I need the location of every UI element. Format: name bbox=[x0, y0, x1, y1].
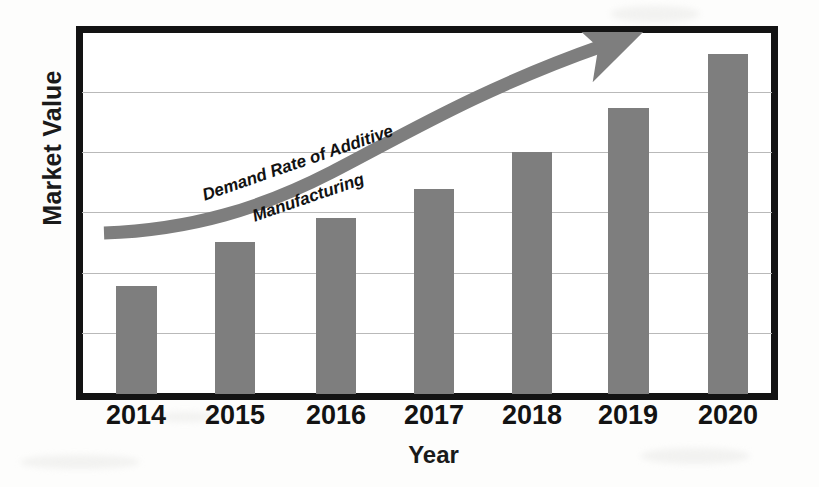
x-axis-title-text: Year bbox=[408, 441, 459, 469]
bar-2017[interactable] bbox=[414, 189, 454, 394]
bar-2019[interactable] bbox=[608, 108, 649, 394]
y-axis-title: Market Value bbox=[32, 38, 72, 258]
x-tick-2018: 2018 bbox=[487, 400, 577, 431]
plot-area bbox=[82, 32, 772, 394]
bar-2014[interactable] bbox=[116, 286, 157, 394]
gridline bbox=[82, 152, 772, 153]
x-tick-2014: 2014 bbox=[91, 400, 181, 431]
bar-2020[interactable] bbox=[708, 54, 748, 394]
bar-2018[interactable] bbox=[512, 152, 552, 394]
bar-2016[interactable] bbox=[316, 218, 356, 394]
x-tick-2017: 2017 bbox=[389, 400, 479, 431]
bar-2015[interactable] bbox=[215, 242, 255, 394]
x-tick-2016: 2016 bbox=[291, 400, 381, 431]
x-axis-tick-labels: 2014 2015 2016 2017 2018 2019 2020 bbox=[82, 400, 772, 434]
x-axis-title: Year bbox=[0, 441, 819, 469]
x-tick-2015: 2015 bbox=[190, 400, 280, 431]
x-tick-2019: 2019 bbox=[583, 400, 673, 431]
chart-figure: Market Value Demand Rate of Additive Man… bbox=[0, 0, 819, 487]
paper-blotch bbox=[610, 6, 700, 22]
x-tick-2020: 2020 bbox=[683, 400, 773, 431]
gridline bbox=[82, 92, 772, 93]
